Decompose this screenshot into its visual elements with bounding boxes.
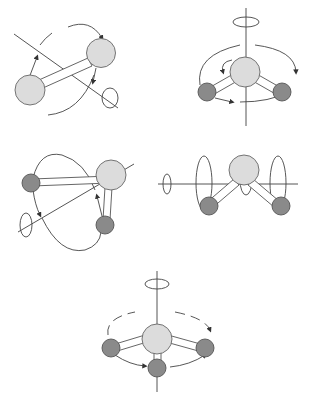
panel-bent-rotation-inplane (18, 154, 134, 250)
rotation-arrow (215, 98, 232, 102)
bond (103, 187, 112, 220)
rotation-arrow (115, 355, 145, 366)
molecular-rotation-diagram (0, 0, 314, 409)
rotation-orbit (42, 218, 101, 251)
rotation-orbit (40, 33, 52, 45)
outer-atom (196, 339, 214, 357)
rotation-arrow (68, 24, 102, 38)
rotation-arrow (93, 68, 96, 82)
outer-atom (273, 83, 291, 101)
rotation-arrow (255, 45, 296, 72)
outer-atom (198, 83, 216, 101)
outer-atom (272, 197, 290, 215)
central-atom (142, 324, 172, 354)
outer-atom (148, 359, 166, 377)
rotation-arrow (175, 312, 210, 330)
panel-bent-rotation-vertical (198, 8, 296, 126)
central-atom (229, 155, 259, 185)
rotation-arrow (33, 190, 40, 215)
panel-bent-rotation-horizontal (158, 155, 298, 215)
rotation-arrow (97, 196, 102, 216)
outer-atom (96, 216, 114, 234)
outer-atom (22, 174, 40, 192)
central-atom (230, 57, 260, 87)
central-atom (96, 160, 126, 190)
panel-linear-rotation (14, 24, 118, 115)
rotation-arrow (170, 355, 205, 367)
outer-atom (102, 339, 120, 357)
rotation-orbit (108, 312, 135, 335)
atom (87, 39, 116, 68)
atom (15, 75, 45, 105)
panel-pyramidal-rotation (102, 271, 214, 392)
outer-atom (200, 197, 218, 215)
